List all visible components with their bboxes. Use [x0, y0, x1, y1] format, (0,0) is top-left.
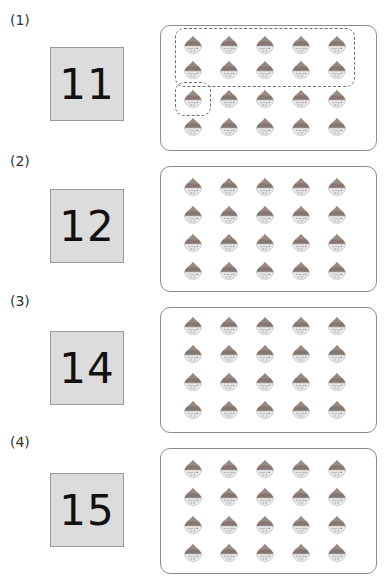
chestnut-icon [255, 233, 275, 253]
chestnut-icon [183, 372, 203, 392]
counting-panel [160, 25, 377, 151]
chestnut-icon [219, 89, 239, 109]
chestnut-icon [219, 543, 239, 563]
chestnut-icon [327, 543, 347, 563]
chestnut-icon [255, 515, 275, 535]
chestnut-icon [183, 261, 203, 281]
number-card: 14 [50, 331, 124, 405]
chestnut-icon [219, 117, 239, 137]
chestnut-icon [183, 487, 203, 507]
chestnut-icon [219, 316, 239, 336]
chestnut-icon [291, 89, 311, 109]
chestnut-icon [183, 177, 203, 197]
counting-panel [160, 166, 377, 292]
chestnut-icon [255, 177, 275, 197]
chestnut-icon [291, 233, 311, 253]
chestnut-icon [291, 177, 311, 197]
chestnut-icon [291, 117, 311, 137]
chestnut-icon [219, 515, 239, 535]
chestnut-icon [219, 487, 239, 507]
chestnut-icon [327, 372, 347, 392]
chestnut-icon [255, 117, 275, 137]
chestnut-icon [327, 89, 347, 109]
problem-label: (2) [10, 153, 30, 169]
chestnut-icon [255, 205, 275, 225]
chestnut-icon [183, 344, 203, 364]
problem-label: (1) [10, 12, 30, 28]
chestnut-icon [327, 316, 347, 336]
number-card: 15 [50, 473, 124, 547]
chestnut-icon [291, 316, 311, 336]
problem-2: (2)12 [0, 153, 389, 293]
chestnut-icon [327, 177, 347, 197]
chestnut-icon [291, 487, 311, 507]
chestnut-icon [255, 400, 275, 420]
chestnut-icon [327, 487, 347, 507]
chestnut-icon [255, 487, 275, 507]
chestnut-icon [327, 117, 347, 137]
problem-3: (3)14 [0, 293, 389, 433]
chestnut-icon [219, 459, 239, 479]
problem-label: (4) [10, 434, 30, 450]
chestnut-icon [327, 261, 347, 281]
chestnut-icon [291, 515, 311, 535]
counting-panel [160, 307, 377, 433]
chestnut-icon [183, 205, 203, 225]
number-card: 12 [50, 189, 124, 263]
chestnut-icon [219, 233, 239, 253]
chestnut-icon [291, 205, 311, 225]
chestnut-icon [219, 205, 239, 225]
chestnut-icon [291, 400, 311, 420]
problem-label: (3) [10, 293, 30, 309]
chestnut-icon [255, 543, 275, 563]
number-card: 11 [50, 47, 124, 121]
chestnut-icon [327, 515, 347, 535]
chestnut-icon [183, 515, 203, 535]
chestnut-icon [291, 372, 311, 392]
chestnut-icon [183, 400, 203, 420]
chestnut-icon [291, 543, 311, 563]
chestnut-icon [255, 316, 275, 336]
one-group-dashed-circle [175, 82, 211, 116]
chestnut-icon [183, 117, 203, 137]
chestnut-icon [219, 177, 239, 197]
chestnut-icon [183, 543, 203, 563]
ten-group-dashed-circle [175, 28, 355, 87]
chestnut-icon [255, 261, 275, 281]
chestnut-icon [255, 89, 275, 109]
chestnut-icon [183, 459, 203, 479]
chestnut-icon [219, 261, 239, 281]
chestnut-icon [219, 400, 239, 420]
chestnut-icon [327, 344, 347, 364]
problem-4: (4)15 [0, 434, 389, 574]
chestnut-icon [327, 400, 347, 420]
counting-panel [160, 448, 377, 574]
chestnut-icon [219, 344, 239, 364]
chestnut-icon [183, 233, 203, 253]
chestnut-icon [255, 459, 275, 479]
chestnut-icon [255, 372, 275, 392]
problem-1: (1)11 [0, 12, 389, 152]
chestnut-icon [327, 205, 347, 225]
chestnut-icon [291, 344, 311, 364]
chestnut-icon [327, 233, 347, 253]
chestnut-icon [183, 316, 203, 336]
chestnut-icon [327, 459, 347, 479]
chestnut-icon [291, 261, 311, 281]
chestnut-icon [255, 344, 275, 364]
chestnut-icon [219, 372, 239, 392]
chestnut-icon [291, 459, 311, 479]
